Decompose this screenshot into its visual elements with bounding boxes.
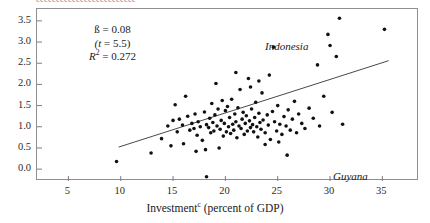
annotation-label-guyana: Guyana (333, 171, 368, 182)
scatter-point (190, 122, 194, 126)
scatter-point (300, 122, 304, 126)
scatter-point (247, 77, 251, 81)
scatter-point (149, 151, 153, 155)
scatter-point (198, 125, 202, 129)
scatter-point (277, 140, 281, 144)
scatter-point (203, 110, 207, 114)
scatter-point (383, 28, 387, 32)
scatter-point (255, 125, 259, 129)
scatter-point (186, 114, 190, 118)
scatter-point (226, 105, 230, 109)
scatter-point (204, 148, 208, 152)
scatter-point (241, 111, 245, 115)
y-axis-tick-label: 3.0 (18, 36, 31, 47)
scatter-point (235, 136, 239, 140)
x-axis-tick-label: 30 (324, 186, 335, 197)
scatter-point (216, 107, 220, 111)
page-bleed-text: eeeeeeeeeeeeeeeeeeeeeeeee (36, 0, 236, 4)
x-axis-tick-label: 5 (65, 186, 70, 197)
scatter-point (238, 88, 242, 92)
scatter-point (248, 119, 252, 123)
scatter-point (208, 117, 212, 121)
scatter-point (311, 117, 315, 121)
scatter-point (322, 94, 326, 98)
scatter-point (227, 125, 231, 129)
y-axis-tick-label: 0.0 (18, 163, 31, 174)
scatter-point (239, 127, 243, 131)
scatter-figure: eeeeeeeeeeeeeeeeeeeeeeeee 0.00.51.01.52.… (0, 0, 430, 223)
x-axis-tick-label: 25 (271, 186, 282, 197)
scatter-point (261, 118, 265, 122)
scatter-point (251, 123, 255, 127)
scatter-point (291, 117, 295, 121)
scatter-point (338, 17, 342, 21)
r2-stat: R2 = 0.272 (89, 50, 136, 64)
scatter-point (224, 109, 228, 113)
scatter-point (160, 137, 164, 141)
y-axis-tick-label: 2.5 (18, 57, 31, 68)
scatter-point (221, 134, 225, 138)
scatter-point (253, 116, 257, 120)
scatter-point (181, 123, 185, 127)
scatter-point (318, 124, 322, 128)
scatter-point (245, 114, 249, 118)
scatter-point (195, 133, 199, 137)
scatter-point (259, 128, 263, 132)
x-axis-tick-label: 20 (219, 186, 230, 197)
scatter-point (269, 138, 273, 142)
scatter-point (171, 119, 175, 123)
scatter-point (210, 102, 214, 106)
scatter-point (316, 63, 320, 67)
y-axis-tick-label: 1.5 (18, 100, 31, 111)
scatter-point (214, 82, 218, 86)
scatter-point (341, 122, 345, 126)
scatter-point (257, 111, 261, 115)
annotation-points (272, 45, 289, 157)
scatter-point (284, 124, 288, 128)
scatter-points (115, 17, 387, 179)
scatter-point (188, 128, 192, 132)
scatter-point (212, 129, 216, 133)
scatter-point (268, 73, 272, 77)
scatter-point (249, 126, 253, 130)
x-axis-tick-label: 15 (167, 186, 178, 197)
x-axis-title-main: Investment (146, 202, 197, 214)
y-axis-tick-label: 0.5 (18, 142, 31, 153)
stats-annotation: ß = 0.08 (t = 5.5) R2 = 0.272 (89, 23, 136, 64)
x-axis-tick-label: 10 (114, 186, 125, 197)
scatter-point (278, 122, 282, 126)
scatter-point (219, 119, 223, 123)
scatter-point (242, 133, 246, 137)
scatter-point (326, 33, 330, 37)
regression-line (119, 61, 389, 147)
scatter-point (293, 100, 297, 104)
scatter-point (215, 124, 219, 128)
y-axis-ticks (37, 21, 42, 169)
scatter-point (256, 135, 260, 139)
scatter-point (196, 120, 200, 124)
scatter-point (275, 129, 279, 133)
scatter-point (307, 106, 311, 110)
scatter-point (263, 143, 267, 147)
scatter-point (240, 117, 244, 121)
scatter-point (234, 120, 238, 124)
scatter-point (328, 44, 332, 48)
scatter-point (228, 116, 232, 120)
scatter-point (230, 97, 234, 101)
scatter-point (252, 130, 256, 134)
scatter-point (211, 121, 215, 125)
scatter-point (288, 128, 292, 132)
scatter-point (205, 123, 209, 127)
scatter-point (175, 130, 179, 134)
scatter-point (265, 113, 269, 117)
scatter-point (178, 117, 182, 121)
beta-stat: ß = 0.08 (89, 23, 136, 37)
scatter-point (184, 94, 188, 98)
y-axis-tick-label: 3.5 (18, 15, 31, 26)
scatter-point (276, 104, 280, 108)
scatter-point (280, 133, 284, 137)
x-axis-title: Investmentc (percent of GDP) (0, 202, 430, 214)
scatter-point (229, 132, 233, 136)
scatter-point (303, 127, 307, 131)
scatter-point (286, 108, 290, 112)
